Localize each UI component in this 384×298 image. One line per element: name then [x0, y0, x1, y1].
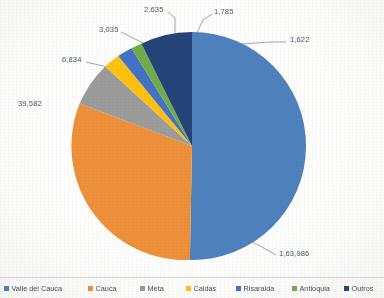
- data-label-outros: 1,622: [290, 35, 310, 44]
- chart-page: 39,582 6,834 3,035 2,635 1,785 1,622 1,6…: [0, 0, 384, 298]
- data-label-risaralda: 2,635: [144, 5, 164, 14]
- legend-item-caldas[interactable]: Caldas: [186, 284, 216, 293]
- legend-label-6: Outros: [352, 284, 374, 293]
- legend-item-outros[interactable]: Outros: [344, 284, 373, 293]
- slice-valle-del-cauca[interactable]: [190, 32, 306, 260]
- chart-legend: Valle del CaucaCaucaMetaCaldasRisaraldaA…: [0, 277, 384, 298]
- legend-item-meta[interactable]: Meta: [140, 284, 164, 293]
- legend-label-4: Risaralda: [244, 284, 275, 293]
- data-label-meta: 6,834: [62, 55, 82, 64]
- legend-swatch-1: [88, 286, 93, 291]
- legend-item-valle-del-cauca[interactable]: Valle del Cauca: [4, 284, 62, 293]
- pie-slices: [71, 32, 306, 260]
- legend-item-risaralda[interactable]: Risaralda: [236, 284, 274, 293]
- data-label-caldas: 3,035: [99, 25, 119, 34]
- legend-swatch-0: [4, 286, 9, 291]
- pie-svg: [0, 0, 384, 272]
- data-label-antioquia: 1,785: [214, 7, 234, 16]
- legend-item-antioquia[interactable]: Antioquia: [292, 284, 330, 293]
- legend-item-cauca[interactable]: Cauca: [88, 284, 117, 293]
- legend-swatch-2: [140, 286, 145, 291]
- legend-swatch-5: [292, 286, 297, 291]
- data-label-cauca: 39,582: [18, 99, 42, 108]
- legend-label-1: Cauca: [96, 284, 117, 293]
- legend-swatch-6: [344, 286, 349, 291]
- pie-chart-plot-area: 39,582 6,834 3,035 2,635 1,785 1,622 1,6…: [0, 0, 384, 272]
- legend-label-0: Valle del Cauca: [12, 284, 63, 293]
- legend-swatch-3: [186, 286, 191, 291]
- legend-label-3: Caldas: [194, 284, 217, 293]
- legend-swatch-4: [236, 286, 241, 291]
- legend-label-2: Meta: [148, 284, 164, 293]
- legend-label-5: Antioquia: [300, 284, 330, 293]
- data-label-valle-del-cauca: 1,63,986: [279, 249, 309, 258]
